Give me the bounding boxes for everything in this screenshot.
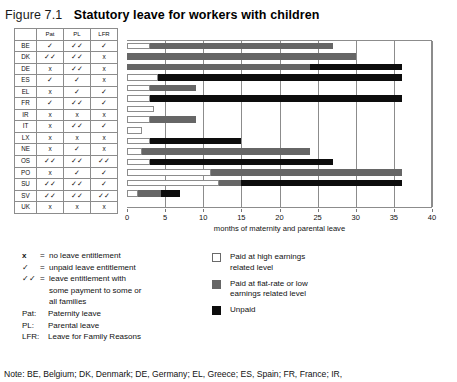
- table-row: ES✓✓x: [15, 75, 118, 87]
- table-cell-pat: x: [37, 144, 64, 156]
- table-cell-pat: x: [37, 86, 64, 98]
- legend-label-high-line1: Paid at high earnings: [230, 252, 305, 261]
- table-cell-pl: ✓: [64, 144, 91, 156]
- table-cell-pat: ✓✓: [37, 190, 64, 202]
- table-row: UKxxx: [15, 202, 118, 214]
- table-row: SU✓✓✓✓✓: [15, 179, 118, 191]
- table-cell-country-el: EL: [15, 86, 37, 98]
- x-tick-5: [165, 209, 166, 212]
- bar-segment-el-high: [127, 85, 150, 92]
- table-cell-country-os: OS: [15, 156, 37, 168]
- table-cell-lfr: ✓: [91, 179, 118, 191]
- table-cell-pat: x: [37, 109, 64, 121]
- table-row: ELx✓✓: [15, 86, 118, 98]
- x-tick-35: [394, 209, 395, 212]
- bar-segment-uk-high: [127, 190, 138, 197]
- table-cell-country-es: ES: [15, 75, 37, 87]
- bar-segment-es-high: [127, 74, 158, 81]
- table-cell-lfr: ✓: [91, 40, 118, 52]
- table-cell-pl: ✓✓: [64, 63, 91, 75]
- table-cell-lfr: x: [91, 52, 118, 64]
- table-cell-country-uk: UK: [15, 202, 37, 214]
- abbrev-row-lfr: LFR: Leave for Family Reasons: [22, 331, 141, 343]
- legend-swatch-flat-icon: [212, 280, 221, 289]
- table-cell-lfr: x: [91, 63, 118, 75]
- bar-row-ne: [127, 136, 432, 147]
- bar-segment-it-high: [127, 116, 150, 123]
- bar-segment-uk-flat: [138, 190, 161, 197]
- table-cell-pl: ✓✓: [64, 52, 91, 64]
- table-cell-country-it: IT: [15, 121, 37, 133]
- bar-row-ir: [127, 104, 432, 115]
- symbol-key-row: x = no leave entitlement: [22, 250, 141, 262]
- x-axis-label: months of maternity and parental leave: [127, 224, 432, 233]
- symbol-double-check-text: leave entitlement with: [49, 273, 141, 285]
- legend-label-unpaid: Unpaid: [230, 305, 308, 316]
- table-cell-pl: ✓✓: [64, 156, 91, 168]
- x-tick-label-20: 20: [275, 213, 283, 222]
- bar-segment-ne-high: [127, 138, 150, 145]
- table-cell-pat: ✓: [37, 40, 64, 52]
- symbol-x-text: no leave entitlement: [49, 250, 141, 262]
- page-title: Statutory leave for workers with childre…: [74, 8, 320, 22]
- table-cell-lfr: x: [91, 75, 118, 87]
- x-tick-label-10: 10: [199, 213, 207, 222]
- x-tick-label-0: 0: [125, 213, 129, 222]
- table-cell-country-ir: IR: [15, 109, 37, 121]
- table-cell-country-su: SU: [15, 179, 37, 191]
- table-cell-country-ne: NE: [15, 144, 37, 156]
- table-cell-pl: ✓: [64, 75, 91, 87]
- figure-body: Pat PL LFR BE✓✓✓✓DK✓✓✓✓xDEx✓✓xES✓✓xELx✓✓…: [0, 28, 457, 228]
- legend-item-high: Paid at high earnings related level: [212, 252, 308, 273]
- table-cell-country-dk: DK: [15, 52, 37, 64]
- bar-segment-lx-high: [127, 127, 142, 134]
- bar-row-el: [127, 83, 432, 94]
- table-cell-country-be: BE: [15, 40, 37, 52]
- x-tick-25: [318, 209, 319, 212]
- bar-segment-po-unpaid: [150, 159, 333, 166]
- table-cell-country-sv: SV: [15, 190, 37, 202]
- table-cell-pl: ✓✓: [64, 190, 91, 202]
- table-cell-pl: ✓: [64, 86, 91, 98]
- table-cell-lfr: ✓✓: [91, 156, 118, 168]
- table-header-country: [15, 29, 37, 41]
- table-cell-pl: x: [64, 109, 91, 121]
- bar-row-de: [127, 62, 432, 73]
- bar-segment-sv-flat: [219, 180, 242, 187]
- symbol-equals: =: [40, 273, 49, 285]
- bar-segment-os-flat: [142, 148, 310, 155]
- bar-segment-es-unpaid: [158, 74, 402, 81]
- symbol-check-text: unpaid leave entitlement: [49, 262, 141, 274]
- legend-label-flat-line2: earnings related level: [230, 289, 306, 298]
- abbrev-text-pl: Parental leave: [48, 320, 141, 332]
- bar-segment-be-flat: [150, 43, 333, 50]
- x-tick-15: [241, 209, 242, 212]
- table-cell-lfr: ✓: [91, 98, 118, 110]
- table-header-pat: Pat: [37, 29, 64, 41]
- table-cell-lfr: x: [91, 202, 118, 214]
- symbol-key-continuation-1: some payment to some or: [49, 285, 141, 297]
- x-tick-30: [356, 209, 357, 212]
- table-cell-pl: ✓✓: [64, 40, 91, 52]
- table-cell-pat: ✓: [37, 75, 64, 87]
- table-cell-country-fr: FR: [15, 98, 37, 110]
- bar-row-sv: [127, 178, 432, 189]
- bar-segment-uk-unpaid: [161, 190, 180, 197]
- legend-label-high: Paid at high earnings related level: [230, 252, 308, 273]
- table-header-pl: PL: [64, 29, 91, 41]
- table-cell-pat: x: [37, 63, 64, 75]
- bar-segment-fr-high: [127, 95, 150, 102]
- bar-row-dk: [127, 51, 432, 62]
- bar-segment-sv-high: [127, 180, 219, 187]
- table-cell-lfr: ✓: [91, 121, 118, 133]
- abbrev-key-pl: PL:: [22, 320, 48, 332]
- bar-row-be: [127, 41, 432, 52]
- bar-segment-it-flat: [150, 116, 196, 123]
- table-row: BE✓✓✓✓: [15, 40, 118, 52]
- x-tick-label-30: 30: [352, 213, 360, 222]
- bar-row-lx: [127, 125, 432, 136]
- table-row: IRxxx: [15, 109, 118, 121]
- bar-segment-el-flat: [150, 85, 196, 92]
- table-header-row: Pat PL LFR: [15, 29, 118, 41]
- symbol-x-icon: x: [22, 250, 40, 262]
